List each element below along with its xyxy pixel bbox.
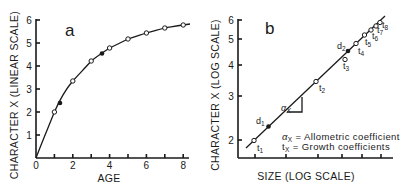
panel-a-ytick-3: 3: [26, 84, 32, 95]
panel-b-letter: b: [265, 19, 274, 38]
label-t3: t3: [343, 61, 350, 72]
panel-b-x-label: SIZE (LOG SCALE): [257, 170, 355, 182]
panel-b-ytick-3: 3: [228, 91, 234, 102]
panel-b: 6 5 4 3 2 SIZE (LOG SCALE) CHARACTER X (…: [209, 15, 400, 182]
panel-a-ytick-5: 5: [26, 38, 32, 49]
label-t8: t8: [382, 20, 389, 31]
panel-b-ytick-6: 6: [228, 15, 234, 26]
panel-a-xtick-6: 6: [144, 160, 150, 171]
panel-a-growth-curve: [36, 24, 190, 158]
panel-a-xtick-2: 2: [70, 160, 76, 171]
label-t2: t2: [319, 83, 326, 94]
panel-a-ytick-6: 6: [26, 15, 32, 26]
label-t1: t1: [257, 143, 264, 154]
panel-b-ytick-4: 4: [228, 60, 234, 71]
label-d2: d2: [337, 41, 346, 52]
label-t4: t4: [358, 46, 365, 57]
panel-a-ytick-1: 1: [26, 130, 32, 141]
panel-a-y-label: CHARACTER X (LINEAR SCALE): [8, 11, 20, 179]
panel-b-y-label: CHARACTER X (LOG SCALE): [209, 19, 221, 171]
panel-b-ytick-5: 5: [228, 34, 234, 45]
panel-b-slope-label: αX: [281, 103, 291, 114]
figure: 6 5 4 3 2 1 0 2 4 6 8 AGE CHARACTER X (L…: [0, 0, 403, 190]
panel-a-xtick-8: 8: [180, 160, 186, 171]
label-t5: t5: [365, 37, 372, 48]
legend-growth: tX = Growth coefficients: [282, 141, 390, 153]
panel-a-letter: a: [65, 21, 75, 40]
panel-b-ytick-2: 2: [228, 135, 234, 146]
panel-a-xtick-4: 4: [107, 160, 113, 171]
panel-a-ytick-2: 2: [26, 107, 32, 118]
panel-a-ytick-4: 4: [26, 61, 32, 72]
panel-b-legend: αX = Allometric coefficient tX = Growth …: [282, 131, 400, 153]
panel-a: 6 5 4 3 2 1 0 2 4 6 8 AGE CHARACTER X (L…: [8, 11, 190, 184]
panel-a-xtick-0: 0: [33, 160, 39, 171]
panel-a-x-label: AGE: [97, 172, 120, 184]
label-d1: d1: [256, 116, 265, 127]
panel-a-filled-points: [58, 51, 105, 105]
